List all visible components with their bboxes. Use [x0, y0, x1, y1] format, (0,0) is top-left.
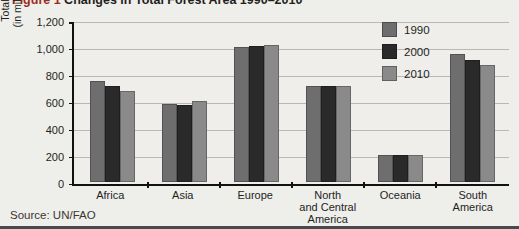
y-tick-label: 0	[58, 178, 64, 189]
x-tick-mark	[291, 182, 293, 188]
y-tick-mark	[69, 22, 74, 24]
bar-groups	[77, 22, 510, 182]
bar	[162, 104, 177, 181]
bar	[120, 91, 135, 182]
bar	[234, 47, 249, 182]
y-tick-mark	[69, 130, 74, 132]
y-tick-mark	[69, 76, 74, 78]
y-tick-mark	[69, 184, 74, 186]
chart-legend: 199020002010	[382, 22, 430, 81]
figure-title: Figure 1 Changes in Total Forest Area 19…	[12, 0, 302, 7]
bar	[336, 86, 351, 182]
figure-title-text: Changes in Total Forest Area 1990–2010	[64, 0, 302, 7]
y-tick-mark	[69, 49, 74, 51]
bar	[321, 86, 336, 182]
bar	[177, 105, 192, 182]
bottom-rule	[0, 226, 519, 229]
y-tick-mark	[69, 157, 74, 159]
bar-group	[149, 22, 221, 182]
bar	[408, 155, 423, 182]
bar	[450, 54, 465, 182]
y-tick-label: 600	[46, 97, 64, 108]
y-tick-label: 1,000	[36, 43, 64, 54]
chart-plot-area	[72, 22, 509, 186]
bar	[378, 155, 393, 182]
legend-item: 2000	[382, 44, 430, 59]
x-axis-label: Oceania	[364, 189, 437, 225]
y-tick-label: 200	[46, 151, 64, 162]
bar	[192, 101, 207, 181]
bar-group	[77, 22, 149, 182]
x-axis-label: South America	[437, 189, 510, 225]
source-note: Source: UN/FAO	[10, 209, 96, 222]
bar	[249, 46, 264, 181]
bar-group	[221, 22, 293, 182]
x-axis-category-labels: AfricaAsiaEuropeNorth and Central Americ…	[74, 189, 509, 225]
x-axis-label: Europe	[219, 189, 292, 225]
bar	[306, 86, 321, 182]
legend-swatch	[382, 44, 397, 59]
bar-group	[293, 22, 365, 182]
x-tick-mark	[363, 182, 365, 188]
y-axis-tick-labels: 02004006008001,0001,200	[14, 22, 68, 186]
bar	[480, 65, 495, 181]
y-tick-label: 1,200	[36, 17, 64, 28]
y-tick-label: 400	[46, 124, 64, 135]
legend-item: 1990	[382, 22, 430, 37]
x-tick-mark	[147, 182, 149, 188]
x-tick-mark	[435, 182, 437, 188]
legend-label: 1990	[404, 24, 430, 36]
legend-swatch	[382, 22, 397, 37]
legend-label: 2010	[404, 68, 430, 80]
x-axis-label: North and Central America	[292, 189, 365, 225]
y-tick-label: 800	[46, 70, 64, 81]
bar	[465, 60, 480, 182]
legend-label: 2000	[404, 46, 430, 58]
bar	[90, 81, 105, 182]
bar-group	[437, 22, 509, 182]
bar	[264, 45, 279, 182]
x-axis-label: Asia	[147, 189, 220, 225]
legend-item: 2010	[382, 66, 430, 81]
legend-swatch	[382, 66, 397, 81]
bar	[393, 155, 408, 182]
x-tick-mark	[219, 182, 221, 188]
y-tick-mark	[69, 103, 74, 105]
bar	[105, 86, 120, 182]
